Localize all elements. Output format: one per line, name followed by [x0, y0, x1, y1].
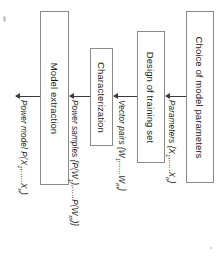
stage-box-design-of-training-set[interactable]: Design of training set: [137, 31, 165, 163]
flow-mid-power-samples: ),.....P(W: [70, 182, 79, 215]
diagram-canvas: Choice of model parameters Design of tra…: [0, 0, 219, 263]
stage-box-model-extraction[interactable]: Model extraction: [40, 11, 69, 185]
flow-text-parameters: Parameters {X: [167, 100, 176, 154]
flow-tail-parameters: }: [167, 181, 176, 184]
flow-mid-vector-pairs: ,.....W: [117, 161, 126, 183]
arrow-parameters: [166, 96, 186, 97]
stage-label-design-of-training-set: Design of training set: [146, 51, 157, 142]
flow-tail-power-model: ): [19, 192, 28, 195]
flow-label-power-samples: Power samples {P(W1),.....P(Wm)}: [68, 100, 79, 226]
scan-speck: [3, 16, 6, 22]
flow-text-vector-pairs: Vector pairs {W: [117, 100, 126, 158]
stage-box-choice-of-model-parameters[interactable]: Choice of model parameters: [186, 11, 214, 183]
stage-box-characterization[interactable]: Characterization: [90, 48, 113, 146]
flow-tail-power-samples: )}: [70, 221, 79, 227]
stage-label-choice-of-model-parameters: Choice of model parameters: [195, 36, 206, 158]
flow-text-power-samples: Power samples {P(W: [70, 100, 79, 179]
arrow-power-model: [16, 96, 40, 97]
flow-text-power-model: Power model P(X: [19, 100, 28, 165]
flow-label-vector-pairs: Vector pairs {W1,.....Wm}: [115, 100, 126, 191]
flow-mid-parameters: ,.....X: [167, 158, 176, 178]
stage-label-characterization: Characterization: [96, 62, 107, 133]
flow-label-parameters: Parameters {X1,.....Xn}: [165, 100, 176, 184]
flow-label-power-model: Power model P(X1,.....Xn): [17, 100, 28, 195]
flow-tail-vector-pairs: }: [117, 188, 126, 191]
arrow-power-samples: [70, 96, 90, 97]
flow-mid-power-model: ,.....X: [19, 169, 28, 189]
arrow-vector-pairs: [114, 96, 137, 97]
stage-label-model-extraction: Model extraction: [49, 62, 60, 133]
scan-speck: [210, 247, 212, 249]
